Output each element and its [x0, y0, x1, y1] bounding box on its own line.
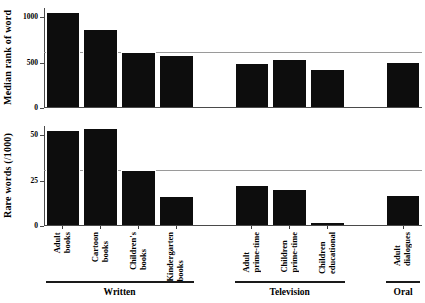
- x-category-label: Adult books: [53, 232, 72, 253]
- x-category-label: Adult dialogues: [393, 232, 412, 266]
- group-name: Television: [235, 287, 345, 297]
- x-axis-baseline: [44, 107, 422, 108]
- group-rule: [386, 281, 421, 283]
- panel-median-rank: 05001000: [44, 8, 422, 108]
- bar: [235, 185, 270, 226]
- y-tick-label: 0: [34, 222, 38, 230]
- y-tick-mark: [40, 63, 44, 64]
- chart-figure: Median rank of word Rare words (/1000) 0…: [0, 0, 425, 303]
- bar: [159, 55, 194, 108]
- x-category-label: Kindergarten books: [166, 232, 185, 282]
- panel-rare-words: 02550: [44, 126, 422, 226]
- group-rule: [46, 281, 194, 283]
- y-tick-mark: [40, 108, 44, 109]
- x-tick-mark: [327, 226, 328, 229]
- y-axis-label-rare-words: Rare words (/1000): [2, 124, 15, 226]
- bar: [272, 189, 307, 226]
- group-rule: [235, 281, 345, 283]
- y-tick-mark: [40, 181, 44, 182]
- bar: [46, 12, 81, 108]
- bar: [386, 195, 421, 226]
- bar: [121, 170, 156, 226]
- bar: [121, 52, 156, 108]
- y-axis-label-median-rank: Median rank of word: [2, 6, 15, 108]
- y-tick-mark: [40, 226, 44, 227]
- x-tick-mark: [289, 226, 290, 229]
- x-category-label: Cartoon books: [91, 232, 110, 262]
- x-tick-mark: [251, 226, 252, 229]
- y-tick-label: 25: [31, 177, 39, 185]
- bar: [310, 69, 345, 108]
- y-tick-label: 1000: [23, 13, 38, 21]
- group-name: Oral: [386, 287, 421, 297]
- x-tick-mark: [403, 226, 404, 229]
- y-tick-mark: [40, 17, 44, 18]
- x-tick-mark: [100, 226, 101, 229]
- bar: [46, 130, 81, 226]
- x-category-label: Children educational: [318, 232, 337, 274]
- bar: [272, 59, 307, 108]
- bar: [159, 196, 194, 226]
- bar: [235, 63, 270, 108]
- x-category-label: Adult prime-time: [242, 232, 261, 273]
- x-category-label: Children prime-time: [280, 232, 299, 273]
- x-tick-mark: [176, 226, 177, 229]
- x-tick-mark: [138, 226, 139, 229]
- bar: [83, 128, 118, 226]
- x-tick-mark: [62, 226, 63, 229]
- y-tick-label: 0: [34, 104, 38, 112]
- y-tick-mark: [40, 135, 44, 136]
- bar: [386, 62, 421, 108]
- y-tick-label: 500: [27, 59, 38, 67]
- bar: [83, 29, 118, 108]
- group-name: Written: [46, 287, 194, 297]
- x-category-label: Children's books: [129, 232, 148, 270]
- y-tick-label: 50: [31, 131, 39, 139]
